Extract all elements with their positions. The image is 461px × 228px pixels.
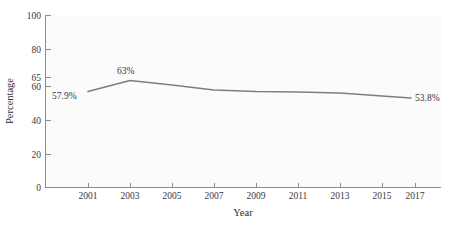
y-tick-label-20: 20 <box>32 150 42 160</box>
x-tick-label-2011: 2011 <box>289 191 308 201</box>
x-axis-tick-labels: 2001 2003 2005 2007 2009 2011 2013 2015 … <box>79 191 425 201</box>
y-axis-title: Percentage <box>4 78 15 124</box>
y-axis-tick-labels: 100 80 65 60 40 20 0 <box>27 11 42 193</box>
x-tick-label-2017: 2017 <box>406 191 425 201</box>
y-tick-label-80: 80 <box>32 45 42 55</box>
y-tick-label-40: 40 <box>32 116 42 126</box>
x-tick-label-2013: 2013 <box>331 191 350 201</box>
x-tick-label-2007: 2007 <box>205 191 224 201</box>
x-tick-label-2015: 2015 <box>373 191 392 201</box>
x-axis-title: Year <box>233 207 253 218</box>
annotation-2001: 57.9% <box>52 91 77 101</box>
y-tick-label-0: 0 <box>36 183 41 193</box>
y-tick-label-100: 100 <box>27 11 42 21</box>
x-tick-label-2009: 2009 <box>247 191 266 201</box>
chart-canvas: 100 80 65 60 40 20 0 2001 2003 2005 2007 <box>0 0 461 228</box>
annotation-2017: 53.8% <box>415 93 440 103</box>
plot-area-background <box>45 15 441 187</box>
x-tick-label-2003: 2003 <box>121 191 140 201</box>
x-tick-label-2005: 2005 <box>163 191 182 201</box>
line-chart: 100 80 65 60 40 20 0 2001 2003 2005 2007 <box>0 0 461 228</box>
annotation-2003: 63% <box>117 66 135 76</box>
x-tick-label-2001: 2001 <box>79 191 98 201</box>
y-tick-label-60: 60 <box>32 82 42 92</box>
